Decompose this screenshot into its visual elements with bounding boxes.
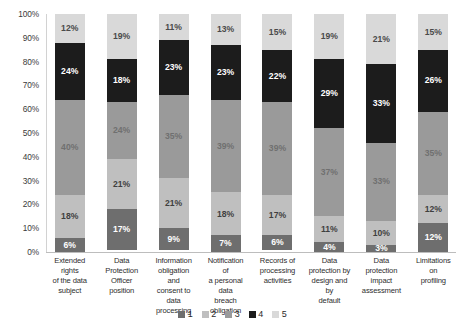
y-axis-tick: 30% bbox=[23, 176, 39, 186]
bar-segment[interactable]: 13% bbox=[211, 14, 241, 45]
bar-segment[interactable]: 7% bbox=[211, 235, 241, 252]
bar-segment[interactable]: 33% bbox=[366, 143, 396, 222]
bar-segment[interactable]: 6% bbox=[55, 238, 85, 252]
bar-segment[interactable]: 15% bbox=[262, 14, 292, 50]
legend-swatch-icon bbox=[178, 311, 185, 318]
bar-segment[interactable]: 39% bbox=[262, 102, 292, 195]
bar-column[interactable]: 15%26%35%12%12% bbox=[411, 14, 456, 252]
bar-column[interactable]: 19%18%24%21%17% bbox=[99, 14, 144, 252]
y-axis-tick: 60% bbox=[23, 104, 39, 114]
bar-segment[interactable]: 26% bbox=[418, 50, 448, 112]
bar-segment[interactable]: 4% bbox=[314, 242, 344, 252]
bar-segment[interactable]: 19% bbox=[314, 14, 344, 59]
bar-group: 12%24%40%18%6%19%18%24%21%17%11%23%35%21… bbox=[47, 14, 456, 252]
legend-item[interactable]: 3 bbox=[225, 309, 240, 319]
chart-legend: 12345 bbox=[0, 309, 465, 319]
bar-stack: 19%18%24%21%17% bbox=[107, 14, 137, 252]
y-axis-tick: 0% bbox=[27, 247, 39, 257]
x-axis-label: Dataprotection bydesign and bydefault bbox=[307, 256, 352, 302]
y-axis-tick: 70% bbox=[23, 80, 39, 90]
y-axis-tick: 100% bbox=[18, 9, 39, 19]
x-axis-line bbox=[46, 252, 456, 253]
x-axis-label: Dataprotectionimpactassessment bbox=[359, 256, 404, 302]
plot-area: 12%24%40%18%6%19%18%24%21%17%11%23%35%21… bbox=[47, 14, 456, 252]
bar-segment[interactable]: 40% bbox=[55, 100, 85, 195]
legend-swatch-icon bbox=[225, 311, 232, 318]
bar-segment[interactable]: 10% bbox=[366, 221, 396, 245]
x-axis-label: Records ofprocessingactivities bbox=[255, 256, 300, 302]
bar-segment[interactable]: 21% bbox=[107, 159, 137, 209]
legend-swatch-icon bbox=[272, 311, 279, 318]
bar-stack: 15%26%35%12%12% bbox=[418, 14, 448, 252]
bar-segment[interactable]: 21% bbox=[159, 178, 189, 228]
bar-column[interactable]: 21%33%33%10%3% bbox=[359, 14, 404, 252]
x-axis-label: Informationobligation andconsent to data… bbox=[151, 256, 196, 302]
bar-segment[interactable]: 24% bbox=[107, 102, 137, 159]
bar-segment[interactable]: 35% bbox=[159, 95, 189, 178]
bar-segment[interactable]: 9% bbox=[159, 228, 189, 249]
bar-segment[interactable]: 23% bbox=[159, 40, 189, 95]
y-axis-tick: 90% bbox=[23, 33, 39, 43]
x-axis-label: Notification ofa personal databreachobli… bbox=[203, 256, 248, 302]
bar-stack: 15%22%39%17%6% bbox=[262, 14, 292, 252]
x-axis-label: DataProtectionOfficer position bbox=[99, 256, 144, 302]
y-axis-tick: 40% bbox=[23, 152, 39, 162]
bar-stack: 21%33%33%10%3% bbox=[366, 14, 396, 252]
bar-segment[interactable]: 29% bbox=[314, 59, 344, 128]
legend-label: 3 bbox=[235, 309, 240, 319]
y-axis: 0%10%20%30%40%50%60%70%80%90%100% bbox=[0, 14, 44, 252]
bar-stack: 12%24%40%18%6% bbox=[55, 14, 85, 252]
y-axis-tick: 20% bbox=[23, 199, 39, 209]
bar-segment[interactable]: 35% bbox=[418, 112, 448, 195]
legend-label: 2 bbox=[211, 309, 216, 319]
bar-segment[interactable]: 24% bbox=[55, 43, 85, 100]
bar-segment[interactable]: 39% bbox=[211, 100, 241, 193]
legend-item[interactable]: 5 bbox=[272, 309, 287, 319]
bar-segment[interactable]: 12% bbox=[418, 223, 448, 252]
bar-stack: 11%23%35%21%9% bbox=[159, 14, 189, 252]
bar-segment[interactable]: 21% bbox=[366, 14, 396, 64]
bar-segment[interactable]: 6% bbox=[262, 235, 292, 249]
bar-segment[interactable]: 18% bbox=[107, 59, 137, 102]
bar-segment[interactable]: 3% bbox=[366, 245, 396, 252]
bar-segment[interactable]: 17% bbox=[262, 195, 292, 235]
bar-segment[interactable]: 17% bbox=[107, 209, 137, 249]
bar-column[interactable]: 19%29%37%11%4% bbox=[307, 14, 352, 252]
bar-segment[interactable]: 37% bbox=[314, 128, 344, 216]
legend-item[interactable]: 1 bbox=[178, 309, 193, 319]
bar-segment[interactable]: 22% bbox=[262, 50, 292, 102]
legend-swatch-icon bbox=[202, 311, 209, 318]
bar-segment[interactable]: 12% bbox=[418, 195, 448, 224]
legend-label: 5 bbox=[282, 309, 287, 319]
y-axis-tick: 10% bbox=[23, 223, 39, 233]
x-axis-label: Limitations onprofiling bbox=[411, 256, 456, 302]
bar-column[interactable]: 13%23%39%18%7% bbox=[203, 14, 248, 252]
bar-segment[interactable]: 11% bbox=[159, 14, 189, 40]
legend-label: 4 bbox=[258, 309, 263, 319]
y-axis-tick: 50% bbox=[23, 128, 39, 138]
bar-stack: 19%29%37%11%4% bbox=[314, 14, 344, 252]
x-axis-label: Extended rightsof the datasubject bbox=[47, 256, 92, 302]
bar-segment[interactable]: 18% bbox=[55, 195, 85, 238]
bar-column[interactable]: 11%23%35%21%9% bbox=[151, 14, 196, 252]
x-axis-labels: Extended rightsof the datasubjectDataPro… bbox=[47, 256, 456, 302]
legend-label: 1 bbox=[188, 309, 193, 319]
bar-segment[interactable]: 19% bbox=[107, 14, 137, 59]
y-axis-tick: 80% bbox=[23, 57, 39, 67]
bar-segment[interactable]: 11% bbox=[314, 216, 344, 242]
bar-stack: 13%23%39%18%7% bbox=[211, 14, 241, 252]
bar-segment[interactable]: 33% bbox=[366, 64, 396, 143]
bar-column[interactable]: 12%24%40%18%6% bbox=[47, 14, 92, 252]
bar-segment[interactable]: 12% bbox=[55, 14, 85, 43]
legend-item[interactable]: 2 bbox=[202, 309, 217, 319]
bar-segment[interactable]: 18% bbox=[211, 192, 241, 235]
stacked-bar-chart: 0%10%20%30%40%50%60%70%80%90%100% 12%24%… bbox=[0, 0, 465, 332]
bar-segment[interactable]: 15% bbox=[418, 14, 448, 50]
legend-swatch-icon bbox=[249, 311, 256, 318]
bar-segment[interactable]: 23% bbox=[211, 45, 241, 100]
legend-item[interactable]: 4 bbox=[249, 309, 264, 319]
bar-column[interactable]: 15%22%39%17%6% bbox=[255, 14, 300, 252]
